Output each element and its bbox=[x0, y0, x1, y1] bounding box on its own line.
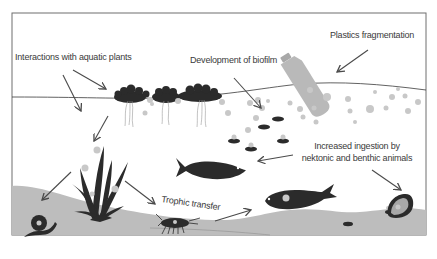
label-biofilm: Development of biofilm bbox=[190, 55, 277, 65]
label-plastics: Plastics fragmentation bbox=[330, 30, 414, 40]
label-ingestion: Increased ingestion by nektonic and bent… bbox=[298, 140, 416, 164]
label-aquatic-plants: Interactions with aquatic plants bbox=[15, 52, 132, 62]
label-ingestion-line1: Increased ingestion by bbox=[298, 140, 416, 152]
label-ingestion-line2: nektonic and benthic animals bbox=[298, 152, 416, 164]
